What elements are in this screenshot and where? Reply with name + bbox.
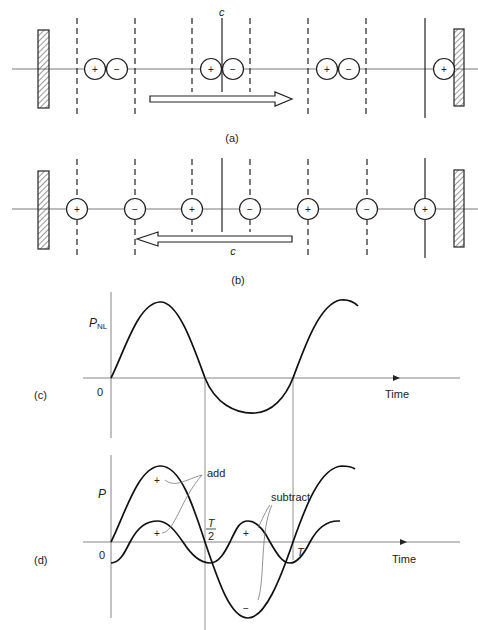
wave-speed-label: c — [230, 245, 236, 257]
origin-label: 0 — [99, 549, 105, 561]
panel-b: + − + − + − + c (b) — [12, 158, 478, 286]
dipole-signs: + − + − + − + — [92, 64, 447, 75]
svg-text:+: + — [422, 204, 428, 215]
y-label-p: P — [98, 487, 106, 501]
wave-speed-label: c — [219, 6, 225, 18]
svg-text:−: − — [114, 64, 120, 75]
svg-text:+: + — [441, 64, 447, 75]
y-label-pnl: PNL — [89, 316, 108, 331]
x-label-time: Time — [385, 388, 409, 400]
figure: c + − + − + − + (a) — [0, 0, 478, 630]
arrow-right-icon — [150, 92, 292, 106]
caption-d: (d) — [34, 554, 47, 566]
annotation-add: add — [207, 467, 225, 479]
curve-signs: + + + − — [154, 475, 249, 614]
svg-text:+: + — [74, 204, 80, 215]
svg-text:−: − — [243, 603, 249, 614]
mirror-left — [38, 30, 49, 108]
svg-text:+: + — [305, 204, 311, 215]
half-period-denominator: 2 — [208, 530, 214, 542]
x-label-time: Time — [392, 553, 416, 565]
caption-c: (c) — [34, 389, 47, 401]
leader-lines — [162, 475, 272, 600]
svg-text:−: − — [346, 64, 352, 75]
svg-text:+: + — [243, 528, 249, 539]
svg-text:+: + — [154, 475, 160, 486]
panel-d: + + + − add subtract T 2 T P 0 Time (d) — [34, 455, 460, 618]
svg-text:+: + — [324, 64, 330, 75]
caption-a: (a) — [225, 132, 238, 144]
arrow-left-icon — [137, 232, 292, 246]
x-axis-arrowhead-icon — [393, 375, 400, 381]
caption-b: (b) — [231, 274, 244, 286]
svg-text:−: − — [230, 64, 236, 75]
half-period-numerator: T — [208, 517, 216, 529]
svg-text:+: + — [208, 64, 214, 75]
svg-text:−: − — [132, 204, 138, 215]
panel-a: c + − + − + − + (a) — [12, 6, 478, 144]
mirror-right — [454, 170, 464, 247]
mirror-left — [38, 171, 49, 249]
origin-label: 0 — [97, 386, 103, 398]
panel-c: PNL 0 Time (c) — [34, 292, 460, 630]
annotation-subtract: subtract — [271, 491, 310, 503]
svg-text:+: + — [92, 64, 98, 75]
mirror-right — [454, 29, 464, 106]
svg-text:−: − — [364, 204, 370, 215]
pnl-curve — [111, 300, 358, 413]
x-axis-arrowhead-icon — [400, 539, 407, 545]
svg-text:+: + — [154, 528, 160, 539]
svg-text:−: − — [247, 204, 253, 215]
svg-text:+: + — [189, 204, 195, 215]
